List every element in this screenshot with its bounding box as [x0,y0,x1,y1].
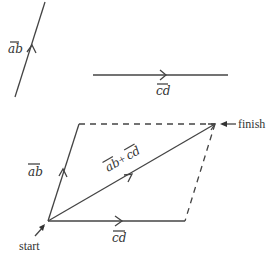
label-cd-standalone: cd [156,84,171,98]
label-cd-side: cd [112,231,127,245]
vector-addition-diagram: ab cd ab cd ab + cd [0,0,278,258]
label-sum-cd: cd [123,143,143,162]
parallelogram: ab cd ab + cd [28,124,215,245]
start-label: start [19,239,40,253]
finish-label: finish [238,117,265,131]
start-annotation: start [19,224,45,253]
label-ab-side: ab [28,165,43,179]
arrow-icon [220,121,227,127]
label-ab-standalone: ab [8,42,23,56]
vector-ab-standalone: ab [8,2,45,97]
finish-annotation: finish [220,117,265,131]
vector-cd-standalone: cd [93,70,228,98]
arrowhead-icon [27,45,36,53]
